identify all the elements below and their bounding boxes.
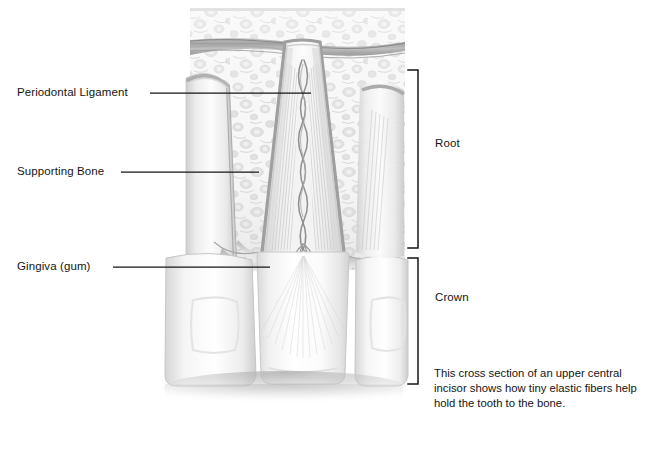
label-gingiva: Gingiva (gum) [17, 260, 91, 272]
label-periodontal-ligament: Periodontal Ligament [17, 86, 128, 98]
adjacent-tooth-left [165, 253, 256, 386]
label-root: Root [435, 137, 460, 149]
tooth-crown-center [257, 252, 349, 384]
figure-caption: This cross section of an upper central i… [434, 366, 656, 412]
adjacent-tooth-right [355, 82, 408, 386]
label-supporting-bone: Supporting Bone [17, 165, 104, 177]
label-crown: Crown [435, 291, 469, 303]
